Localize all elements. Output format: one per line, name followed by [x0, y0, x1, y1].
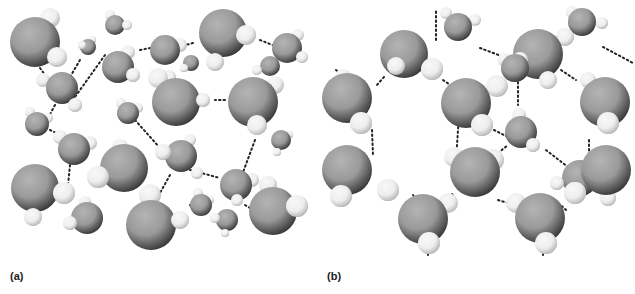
oxygen-atom	[152, 78, 200, 126]
oxygen-atom	[11, 164, 59, 212]
hydrogen-atom	[155, 144, 171, 160]
hydrogen-atom	[247, 115, 267, 135]
water-molecule	[322, 69, 372, 134]
hydrogen-atom	[286, 195, 308, 217]
hydrogen-bond	[135, 120, 160, 148]
hydrogen-atom	[486, 75, 508, 97]
water-molecule	[148, 68, 210, 126]
water-molecule	[380, 30, 443, 80]
hydrogen-atom	[231, 194, 243, 206]
hydrogen-atom	[550, 176, 564, 190]
hydrogen-atom	[564, 182, 586, 204]
water-molecule	[87, 139, 148, 192]
hydrogen-bond	[68, 165, 70, 185]
hydrogen-atom	[471, 114, 493, 136]
water-molecule	[105, 10, 132, 35]
oxygen-atom	[117, 102, 139, 124]
hydrogen-bond	[160, 175, 170, 193]
hydrogen-atom	[273, 148, 281, 156]
water-molecule	[398, 193, 458, 254]
water-molecule	[580, 72, 630, 134]
hydrogen-atom	[421, 58, 443, 80]
hydrogen-atom	[206, 53, 224, 71]
ice-lattice-diagram	[318, 0, 635, 294]
water-molecule	[322, 145, 399, 207]
water-molecule	[155, 134, 203, 179]
water-molecule	[506, 193, 565, 254]
hydrogen-atom	[221, 229, 229, 237]
oxygen-atom	[450, 147, 500, 197]
water-molecule	[440, 7, 481, 41]
oxygen-atom	[126, 200, 176, 250]
oxygen-atom	[271, 130, 291, 150]
oxygen-atom	[581, 145, 631, 195]
panel-b-ice: (b)	[318, 0, 635, 294]
hydrogen-atom	[418, 232, 440, 254]
water-molecule	[126, 184, 189, 250]
water-molecule	[444, 147, 504, 197]
water-molecule	[272, 29, 308, 63]
hydrogen-atom	[180, 64, 188, 72]
oxygen-atom	[71, 202, 103, 234]
hydrogen-atom	[377, 179, 399, 201]
water-molecule	[199, 9, 256, 71]
hydrogen-atom	[535, 232, 557, 254]
water-molecule	[271, 130, 293, 156]
hydrogen-bond	[372, 130, 373, 155]
hydrogen-atom	[171, 211, 189, 229]
panel-b-label: (b)	[327, 270, 341, 282]
water-molecule	[11, 164, 75, 226]
oxygen-atom	[58, 133, 90, 165]
hydrogen-atom	[63, 216, 77, 230]
hydrogen-bond	[242, 140, 255, 175]
water-molecule	[190, 188, 214, 216]
water-molecule	[556, 6, 608, 46]
hydrogen-atom	[78, 41, 86, 49]
water-molecule	[53, 130, 97, 165]
hydrogen-atom	[191, 167, 203, 179]
oxygen-atom	[501, 54, 529, 82]
hydrogen-atom	[597, 112, 619, 134]
hydrogen-atom	[126, 68, 140, 82]
hydrogen-atom	[596, 17, 608, 29]
hydrogen-bond	[546, 150, 568, 167]
water-molecule	[116, 98, 143, 124]
water-molecule	[25, 107, 53, 136]
oxygen-atom	[190, 194, 212, 216]
water-molecule	[505, 108, 540, 152]
hydrogen-atom	[196, 93, 210, 107]
oxygen-atom	[260, 56, 280, 76]
water-molecule	[36, 72, 82, 112]
hydrogen-atom	[350, 112, 372, 134]
hydrogen-atom	[87, 166, 109, 188]
oxygen-atom	[25, 112, 49, 136]
hydrogen-atom	[296, 51, 308, 63]
water-molecule	[78, 36, 96, 55]
hydrogen-atom	[210, 213, 220, 223]
liquid-water-diagram	[0, 0, 318, 294]
hydrogen-atom	[47, 47, 67, 67]
water-molecule	[210, 209, 238, 237]
hydrogen-bond	[376, 77, 384, 86]
water-molecule	[228, 76, 284, 135]
oxygen-atom	[150, 35, 180, 65]
hydrogen-atom	[68, 98, 82, 112]
panel-a-liquid-water: (a)	[0, 0, 318, 294]
hydrogen-atom	[24, 208, 42, 226]
water-molecule	[10, 8, 67, 67]
water-molecule	[252, 56, 280, 76]
hydrogen-atom	[252, 65, 262, 75]
hydrogen-atom	[53, 182, 75, 204]
oxygen-atom	[380, 30, 428, 78]
hydrogen-atom	[526, 138, 540, 152]
oxygen-atom	[100, 144, 148, 192]
hydrogen-bond	[603, 47, 633, 63]
hydrogen-atom	[330, 185, 352, 207]
oxygen-atom	[444, 13, 472, 41]
hydrogen-atom	[122, 20, 132, 30]
water-molecule	[441, 75, 508, 136]
hydrogen-atom	[539, 71, 557, 89]
hydrogen-bond	[561, 70, 576, 80]
water-molecule	[180, 55, 199, 72]
panel-a-label: (a)	[10, 270, 23, 282]
